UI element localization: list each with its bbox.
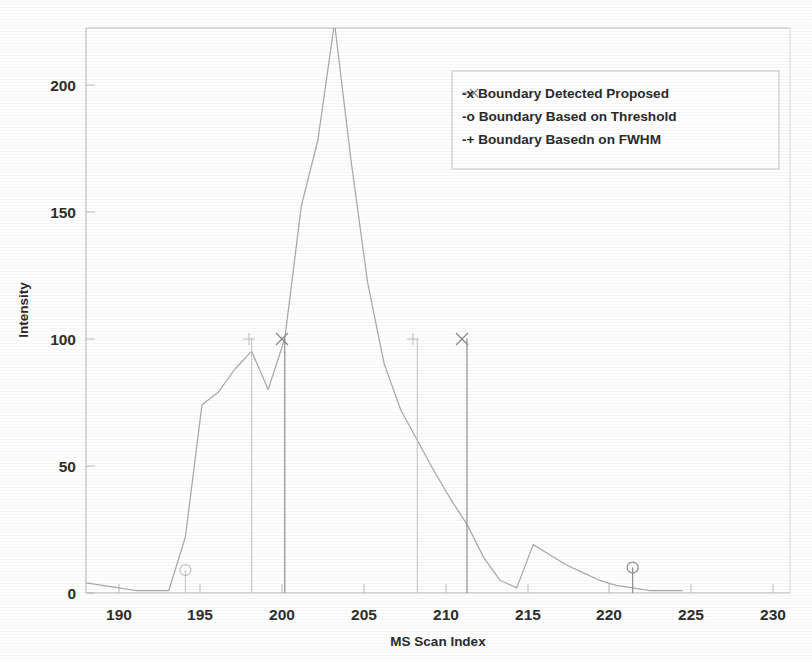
y-tick-label: 150 [50, 204, 76, 221]
y-ticks [86, 85, 95, 593]
legend-label-proposed: -x Boundary Detected Proposed [462, 86, 669, 101]
legend-label-threshold: -o Boundary Based on Threshold [462, 109, 677, 124]
legend-entry-proposed: -x Boundary Detected Proposed [462, 86, 669, 101]
y-tick-label: 0 [67, 585, 76, 602]
x-tick-label: 205 [351, 606, 377, 623]
x-tick-label: 220 [596, 606, 622, 623]
y-axis-title: Intensity [16, 282, 31, 338]
legend-entry-threshold: -o Boundary Based on Threshold [462, 109, 677, 124]
fwhm-boundary-left [243, 333, 255, 593]
x-cross-icon [276, 333, 288, 345]
proposed-boundary-right [456, 333, 468, 593]
threshold-boundary-left [180, 565, 191, 593]
y-tick-label: 50 [59, 458, 76, 475]
x-cross-icon [456, 333, 468, 345]
x-tick-label: 190 [106, 606, 132, 623]
x-tick-label: 215 [515, 606, 541, 623]
plot-canvas: 0 50 100 150 200 190 195 200 205 210 215… [0, 0, 812, 662]
y-tick-label: 100 [50, 331, 76, 348]
y-tick-label: 200 [50, 77, 76, 94]
x-tick-label: 230 [760, 606, 786, 623]
legend-label-fwhm: -+ Boundary Basedn on FWHM [462, 132, 661, 147]
ms-peak-figure: 0 50 100 150 200 190 195 200 205 210 215… [0, 0, 812, 662]
legend-entry-fwhm: -+ Boundary Basedn on FWHM [462, 132, 661, 147]
x-axis-title: MS Scan Index [390, 634, 486, 649]
x-tick-label: 195 [187, 606, 213, 623]
legend: -x Boundary Detected Proposed -o Boundar… [452, 71, 779, 169]
x-tick-label: 225 [678, 606, 704, 623]
fwhm-boundary-right [407, 333, 419, 593]
y-tick-labels: 0 50 100 150 200 [50, 77, 76, 602]
x-ticks [119, 584, 773, 593]
proposed-boundary-left [276, 333, 288, 593]
x-tick-labels: 190 195 200 205 210 215 220 225 230 [106, 606, 786, 623]
x-tick-label: 200 [269, 606, 295, 623]
plus-icon [243, 333, 255, 345]
x-tick-label: 210 [433, 606, 459, 623]
